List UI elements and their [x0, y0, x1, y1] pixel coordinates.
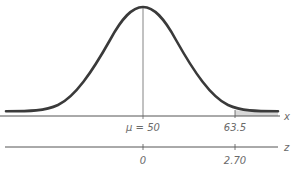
- z-axis-name: z: [283, 142, 290, 153]
- z-tick-label-2-70: 2.70: [224, 155, 246, 166]
- x-tick-label-63-5: 63.5: [224, 122, 246, 133]
- mu-label: μ = 50: [125, 122, 160, 133]
- x-axis-name: x: [283, 111, 290, 122]
- normal-curve-diagram: x μ = 50 63.5 z 0 2.70: [0, 0, 296, 177]
- z-tick-label-0: 0: [140, 155, 146, 166]
- bell-curve: [6, 7, 278, 111]
